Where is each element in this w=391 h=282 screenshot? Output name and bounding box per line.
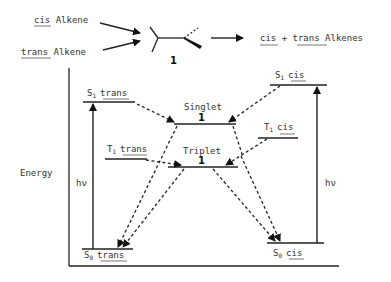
arrow-triplet-to-s0trans-icon [123,169,184,247]
hv-label-left: hν [76,178,87,188]
label-t1-cis: T1cis [264,122,293,133]
arrow-t1trans-to-triplet-icon [146,160,181,165]
arrow-singlet-to-s0cis-segment-icon [233,126,242,154]
reactant-cis-alkene: cis Alkene [34,15,88,25]
twisted-levels: Singlet 1 Triplet 1 [168,102,238,167]
reactant-trans-alkene: trans Alkene [21,47,86,57]
intermediate-label: 1 [170,55,177,66]
jablonski-diagram: cis Alkene trans Alkene 1 cis + trans Al… [0,0,391,282]
arrow-s1cis-to-singlet-icon [229,86,280,122]
label-s0-cis: S0cis [273,248,302,259]
y-axis-label: Energy [20,168,53,178]
arrow-trans-to-intermediate-icon [103,41,140,50]
label-s0-trans: S0trans [84,250,124,261]
label-s1-trans: S1trans [87,88,127,99]
products-label: cis + trans Alkenes [260,33,363,43]
arrow-s1trans-to-singlet-icon [137,104,174,122]
twisted-alkene-structure-icon [150,27,202,52]
cis-levels: S1cis T1cis S0cis hν [258,70,336,259]
reaction-scheme: cis Alkene trans Alkene 1 cis + trans Al… [21,15,363,66]
arrow-cis-to-intermediate-icon [100,23,140,33]
label-s1-cis: S1cis [275,70,304,81]
arrow-triplet-to-s0cis-icon [213,169,275,241]
arrow-t1cis-to-triplet-icon [226,139,267,165]
label-singlet: Singlet [184,102,222,112]
arrow-singlet-to-s0cis-icon [241,156,280,241]
label-triplet-number: 1 [198,155,205,166]
label-singlet-number: 1 [198,112,205,123]
hv-label-right: hν [325,178,336,188]
label-t1-trans: T1trans [107,144,147,155]
trans-levels: S1trans T1trans S0trans hν [76,88,147,261]
